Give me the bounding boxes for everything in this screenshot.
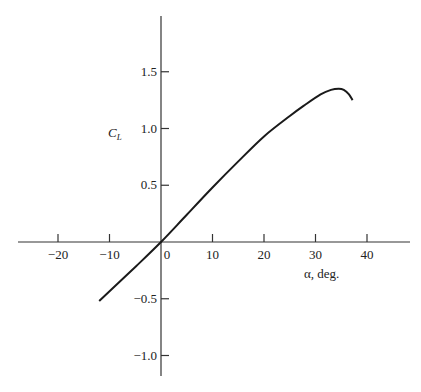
x-tick-label: 10	[206, 247, 219, 262]
ticks: −20−100102030401.51.00.5−0.5−1.0	[48, 64, 374, 363]
x-tick-label: −20	[48, 247, 68, 262]
x-tick-label: 0	[164, 247, 171, 262]
x-tick-label: 20	[258, 247, 271, 262]
y-tick-label: 1.5	[141, 64, 157, 79]
y-tick-label: 0.5	[141, 177, 157, 192]
x-tick-label: 40	[361, 247, 374, 262]
lift-curve-chart: −20−100102030401.51.00.5−0.5−1.0 α, deg.…	[0, 0, 421, 392]
y-tick-label: −0.5	[133, 291, 157, 306]
axes	[18, 16, 410, 376]
y-tick-label: 1.0	[141, 121, 157, 136]
y-tick-label: −1.0	[133, 348, 157, 363]
y-axis-label: CL	[108, 125, 122, 142]
x-tick-label: −10	[99, 247, 119, 262]
x-tick-label: 30	[309, 247, 322, 262]
x-axis-label: α, deg.	[304, 266, 339, 281]
